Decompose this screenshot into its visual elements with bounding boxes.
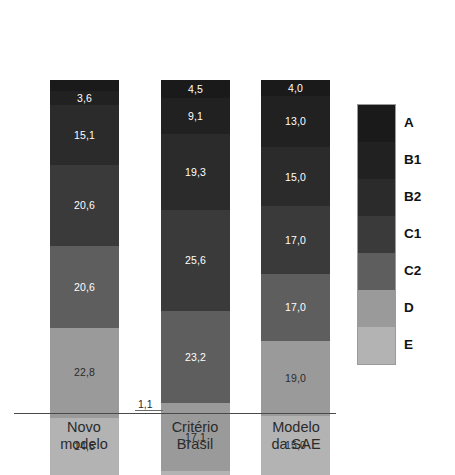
x-axis-label-modelo-da-sae: Modelo da SAE bbox=[231, 419, 361, 453]
bar-segment-value-label: 23,2 bbox=[185, 352, 206, 363]
bar-segment-value-label: 25,6 bbox=[185, 255, 206, 266]
bar-segment-c2[interactable]: 17,0 bbox=[261, 274, 330, 341]
bar-segment-b2[interactable]: 15,0 bbox=[261, 147, 330, 206]
bar-segment-c1[interactable]: 25,6 bbox=[161, 210, 230, 311]
bar-segment-c1[interactable]: 17,0 bbox=[261, 206, 330, 273]
bar-novo-modelo[interactable]: 2,83,615,120,620,622,814,5 bbox=[50, 80, 119, 475]
x-axis-line bbox=[14, 413, 336, 414]
x-axis-label-line2: da SAE bbox=[231, 436, 361, 453]
bar-segment-e[interactable]: 1,1 bbox=[161, 471, 230, 475]
bar-segment-c2[interactable]: 20,6 bbox=[50, 246, 119, 327]
bar-segment-value-label: 19,3 bbox=[185, 167, 206, 178]
bar-segment-b2[interactable]: 15,1 bbox=[50, 105, 119, 165]
bar-segment-b1[interactable]: 9,1 bbox=[161, 98, 230, 134]
legend-swatch-b1[interactable] bbox=[358, 142, 395, 179]
bar-segment-value-label: 3,6 bbox=[77, 93, 92, 104]
legend-label-column: AB1B2C1C2DE bbox=[404, 104, 421, 363]
legend-swatch-a[interactable] bbox=[358, 105, 395, 142]
legend-label-c1: C1 bbox=[404, 215, 421, 252]
legend-label-c2: C2 bbox=[404, 252, 421, 289]
legend-label-d: D bbox=[404, 289, 421, 326]
legend-swatch-column bbox=[357, 104, 396, 365]
legend-swatch-b2[interactable] bbox=[358, 179, 395, 216]
bar-segment-b1[interactable]: 3,6 bbox=[50, 91, 119, 105]
bar-segment-value-label: 19,0 bbox=[285, 373, 306, 384]
legend-swatch-c2[interactable] bbox=[358, 253, 395, 290]
bar-segment-value-label: 13,0 bbox=[285, 116, 306, 127]
bar-segment-value-label: 20,6 bbox=[74, 282, 95, 293]
bar-modelo-da-sae[interactable]: 4,013,015,017,017,019,015,0 bbox=[261, 80, 330, 475]
bar-segment-a[interactable]: 2,8 bbox=[50, 80, 119, 91]
bar-segment-b1[interactable]: 13,0 bbox=[261, 96, 330, 147]
bar-criterio-brasil[interactable]: 4,59,119,325,623,217,11,1 bbox=[161, 80, 230, 475]
bar-segment-value-label: 22,8 bbox=[74, 367, 95, 378]
bar-segment-b2[interactable]: 19,3 bbox=[161, 134, 230, 210]
bar-segment-c1[interactable]: 20,6 bbox=[50, 165, 119, 246]
callout-leader-line bbox=[135, 410, 163, 411]
bar-segment-d[interactable]: 22,8 bbox=[50, 328, 119, 418]
x-axis-label-line1: Modelo bbox=[231, 419, 361, 436]
legend-label-b2: B2 bbox=[404, 178, 421, 215]
bar-segment-value-label: 9,1 bbox=[188, 111, 203, 122]
legend-label-e: E bbox=[404, 326, 421, 363]
legend-swatch-e[interactable] bbox=[358, 327, 395, 364]
bar-segment-value-label: 15,1 bbox=[74, 130, 95, 141]
legend-label-a: A bbox=[404, 104, 421, 141]
bar-segment-value-label: 4,0 bbox=[288, 83, 303, 94]
bar-segment-value-label: 17,0 bbox=[285, 302, 306, 313]
callout-label-criterio-brasil-e: 1,1 bbox=[138, 398, 153, 410]
bar-segment-d[interactable]: 19,0 bbox=[261, 341, 330, 416]
bar-segment-a[interactable]: 4,5 bbox=[161, 80, 230, 98]
bar-segment-value-label: 4,5 bbox=[188, 84, 203, 95]
legend-swatch-d[interactable] bbox=[358, 290, 395, 327]
bar-segment-value-label: 20,6 bbox=[74, 200, 95, 211]
stacked-bar-chart: 2,83,615,120,620,622,814,5 4,59,119,325,… bbox=[0, 0, 455, 475]
bar-segment-a[interactable]: 4,0 bbox=[261, 80, 330, 96]
plot-area: 2,83,615,120,620,622,814,5 4,59,119,325,… bbox=[0, 0, 455, 475]
legend-label-b1: B1 bbox=[404, 141, 421, 178]
legend-swatch-c1[interactable] bbox=[358, 216, 395, 253]
bar-segment-value-label: 15,0 bbox=[285, 172, 306, 183]
bar-segment-c2[interactable]: 23,2 bbox=[161, 311, 230, 403]
bar-segment-value-label: 17,0 bbox=[285, 235, 306, 246]
